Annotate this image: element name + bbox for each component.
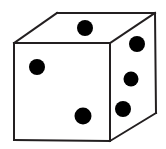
pip-top-1 [77, 20, 93, 36]
pip-right-2 [124, 72, 139, 87]
dice-svg [0, 0, 166, 149]
pip-right-1 [129, 36, 145, 52]
pip-front-2 [75, 108, 92, 125]
pip-right-3 [115, 101, 131, 117]
pip-front-1 [29, 59, 45, 75]
dice-figure [0, 0, 166, 149]
cube-edge-front-bottom [14, 140, 110, 141]
cube-edge-right-back-vertical [155, 13, 156, 113]
front-face [14, 43, 110, 141]
